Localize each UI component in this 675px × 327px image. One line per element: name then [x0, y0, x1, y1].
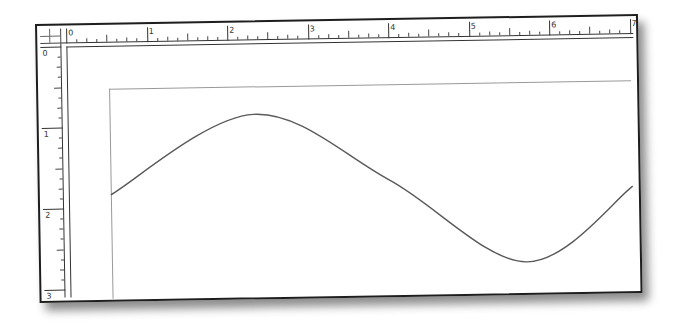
canvas-window-stage: 01234567 0123	[35, 14, 643, 303]
drawing-layer	[37, 16, 645, 305]
drawing-canvas-window: 01234567 0123	[35, 14, 643, 303]
sine-curve-shape[interactable]	[110, 108, 634, 269]
